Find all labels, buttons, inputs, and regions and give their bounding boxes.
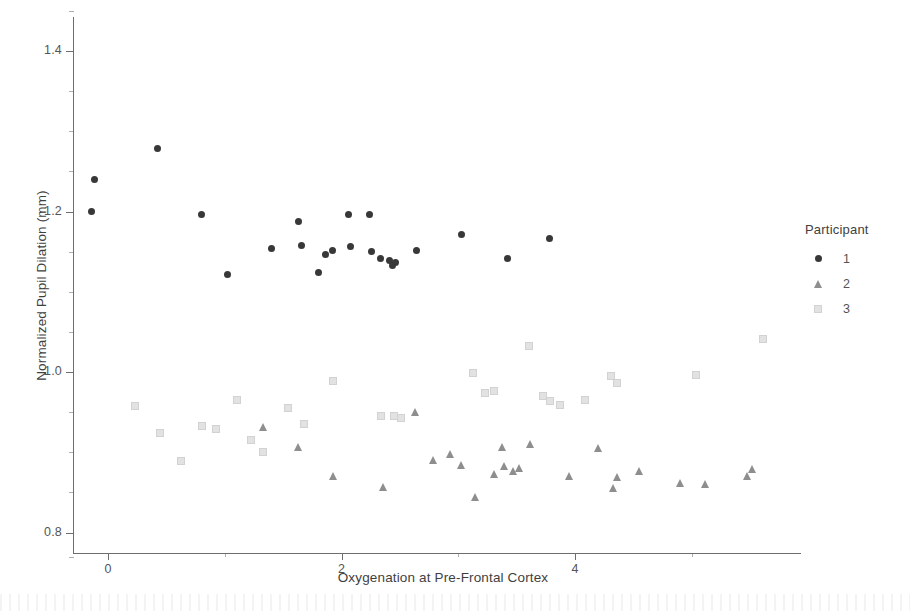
scan-noise-artifact xyxy=(0,594,910,611)
data-point-participant-3 xyxy=(490,387,498,395)
data-point-participant-2 xyxy=(411,408,419,416)
data-point-participant-3 xyxy=(329,377,337,385)
data-point-participant-2 xyxy=(429,456,437,464)
y-minor-tick-mark xyxy=(69,332,74,333)
y-axis-line xyxy=(73,17,74,554)
x-minor-tick-mark xyxy=(225,553,226,557)
y-minor-tick-mark xyxy=(69,171,74,172)
data-point-participant-1 xyxy=(298,242,305,249)
y-tick-mark xyxy=(66,212,74,213)
data-point-participant-2 xyxy=(565,472,573,480)
plot-data-area xyxy=(0,0,910,611)
data-point-participant-3 xyxy=(525,342,533,350)
data-point-participant-2 xyxy=(294,443,302,451)
data-point-participant-3 xyxy=(284,404,292,412)
data-point-participant-1 xyxy=(377,255,384,262)
data-point-participant-2 xyxy=(515,464,523,472)
y-minor-tick-mark xyxy=(69,452,74,453)
data-point-participant-1 xyxy=(413,247,420,254)
x-tick-mark xyxy=(575,553,576,560)
legend-item-3[interactable]: 3 xyxy=(805,296,905,321)
data-point-participant-2 xyxy=(379,483,387,491)
y-minor-tick-mark xyxy=(69,557,74,558)
y-minor-tick-mark xyxy=(69,412,74,413)
data-point-participant-3 xyxy=(212,425,220,433)
data-point-participant-2 xyxy=(490,470,498,478)
y-minor-tick-mark xyxy=(69,252,74,253)
data-point-participant-1 xyxy=(315,269,322,276)
y-tick-mark xyxy=(66,533,74,534)
data-point-participant-1 xyxy=(224,271,231,278)
data-point-participant-2 xyxy=(613,473,621,481)
data-point-participant-1 xyxy=(366,211,373,218)
data-point-participant-1 xyxy=(88,208,95,215)
data-point-participant-2 xyxy=(446,450,454,458)
data-point-participant-3 xyxy=(556,401,564,409)
y-axis-title: Normalized Pupil Dilation (mm) xyxy=(34,141,49,431)
y-minor-tick-mark xyxy=(69,91,74,92)
x-tick-mark xyxy=(108,553,109,560)
data-point-participant-3 xyxy=(300,420,308,428)
data-point-participant-1 xyxy=(295,218,302,225)
x-tick-mark xyxy=(342,553,343,560)
data-point-participant-1 xyxy=(458,231,465,238)
y-minor-tick-mark xyxy=(69,292,74,293)
y-minor-tick-mark xyxy=(69,11,74,12)
data-point-participant-3 xyxy=(613,379,621,387)
data-point-participant-2 xyxy=(526,440,534,448)
legend: Participant 1 2 3 xyxy=(805,222,905,321)
legend-item-1[interactable]: 1 xyxy=(805,246,905,271)
data-point-participant-3 xyxy=(397,414,405,422)
data-point-participant-2 xyxy=(701,480,709,488)
data-point-participant-1 xyxy=(154,145,161,152)
data-point-participant-1 xyxy=(368,248,375,255)
y-minor-tick-mark xyxy=(69,131,74,132)
data-point-participant-2 xyxy=(609,484,617,492)
data-point-participant-2 xyxy=(457,461,465,469)
data-point-participant-3 xyxy=(581,396,589,404)
data-point-participant-1 xyxy=(198,211,205,218)
legend-title: Participant xyxy=(805,222,905,237)
data-point-participant-1 xyxy=(322,251,329,258)
data-point-participant-3 xyxy=(759,335,767,343)
data-point-participant-3 xyxy=(469,369,477,377)
data-point-participant-2 xyxy=(471,493,479,501)
x-tick-label: 0 xyxy=(88,562,128,576)
y-tick-mark xyxy=(66,372,74,373)
legend-marker-square-icon xyxy=(805,305,831,313)
data-point-participant-1 xyxy=(329,247,336,254)
data-point-participant-3 xyxy=(156,429,164,437)
y-tick-label: 0.8 xyxy=(22,525,62,539)
data-point-participant-3 xyxy=(233,396,241,404)
data-point-participant-2 xyxy=(635,467,643,475)
data-point-participant-3 xyxy=(259,448,267,456)
data-point-participant-3 xyxy=(692,371,700,379)
data-point-participant-1 xyxy=(504,255,511,262)
data-point-participant-1 xyxy=(91,176,98,183)
data-point-participant-1 xyxy=(546,235,553,242)
data-point-participant-1 xyxy=(345,211,352,218)
data-point-participant-3 xyxy=(546,397,554,405)
legend-item-label: 1 xyxy=(843,252,850,266)
data-point-participant-3 xyxy=(247,436,255,444)
legend-item-label: 3 xyxy=(843,302,850,316)
data-point-participant-3 xyxy=(177,457,185,465)
data-point-participant-2 xyxy=(329,472,337,480)
legend-marker-circle-icon xyxy=(805,255,831,262)
y-tick-mark xyxy=(66,51,74,52)
data-point-participant-2 xyxy=(594,444,602,452)
x-minor-tick-mark xyxy=(692,553,693,557)
legend-item-2[interactable]: 2 xyxy=(805,271,905,296)
data-point-participant-2 xyxy=(500,462,508,470)
data-point-participant-1 xyxy=(392,259,399,266)
data-point-participant-3 xyxy=(131,402,139,410)
data-point-participant-2 xyxy=(743,472,751,480)
y-minor-tick-mark xyxy=(69,492,74,493)
data-point-participant-3 xyxy=(481,389,489,397)
data-point-participant-2 xyxy=(498,443,506,451)
x-axis-title: Oxygenation at Pre-Frontal Cortex xyxy=(233,570,653,585)
legend-item-label: 2 xyxy=(843,277,850,291)
data-point-participant-3 xyxy=(198,422,206,430)
y-tick-label: 1.4 xyxy=(22,43,62,57)
data-point-participant-1 xyxy=(347,243,354,250)
